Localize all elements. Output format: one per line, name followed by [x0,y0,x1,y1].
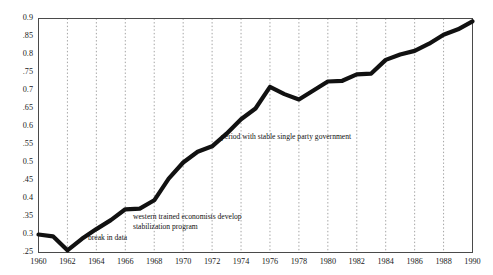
y-tick-label: .85 [23,31,33,40]
annotation-stabilization-line-1: western trained economists develop [133,212,242,221]
y-tick-label: 0.9 [23,13,33,22]
x-tick-label: 1980 [320,257,336,266]
y-tick-label: 0.6 [23,121,33,130]
x-tick-label: 1962 [59,257,75,266]
annotation-stabilization-line-2: stabilization program [133,222,198,231]
x-tick-label: 1978 [291,257,307,266]
y-tick-label: .65 [23,103,33,112]
chart-container: 0.9.850.8.750.7.650.6.550.5.450.4.350.3.… [0,0,493,275]
x-tick-label: 1974 [233,257,249,266]
x-tick-label: 1968 [146,257,162,266]
x-tick-label: 1964 [88,257,104,266]
annotation-stable-government: period with stable single party governme… [221,132,352,141]
x-tick-label: 1966 [117,257,133,266]
x-tick-label: 1986 [406,257,422,266]
y-tick-label: 0.7 [23,85,33,94]
x-tick-label: 1960 [30,257,46,266]
x-tick-label: 1970 [175,257,191,266]
y-tick-label: 0.8 [23,49,33,58]
x-tick-label: 1988 [435,257,451,266]
x-tick-label: 1976 [262,257,278,266]
y-tick-label: 0.5 [23,157,33,166]
annotation-break-in-data: break in data [88,233,128,242]
y-tick-label: 0.3 [23,229,33,238]
y-tick-label: 0.4 [23,193,33,202]
x-tick-label: 1990 [464,257,480,266]
y-tick-label: .25 [23,247,33,256]
y-tick-label: .55 [23,139,33,148]
x-tick-label: 1972 [204,257,220,266]
y-tick-label: .45 [23,175,33,184]
y-tick-label: .35 [23,211,33,220]
x-tick-label: 1984 [378,257,394,266]
line-chart: 0.9.850.8.750.7.650.6.550.5.450.4.350.3.… [0,0,493,275]
y-tick-label: .75 [23,67,33,76]
x-tick-label: 1982 [349,257,365,266]
